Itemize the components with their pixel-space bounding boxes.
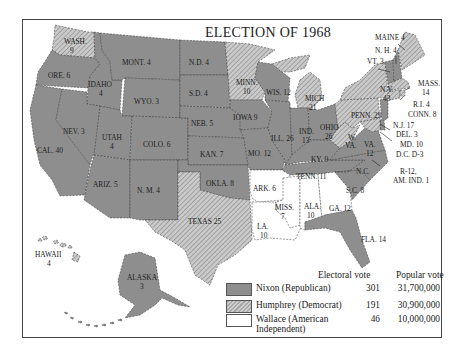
state-alaska[interactable] (118, 252, 190, 318)
label-nev: NEV. 3 (63, 127, 85, 136)
label-iowa: IOWA 9 (233, 113, 258, 122)
legend-electoral-header: Electoral vote (318, 270, 370, 280)
label-del: DEL. 3 (396, 130, 418, 139)
legend-popular-header: Popular vote (396, 270, 444, 280)
label-sc: S.C. 8 (346, 186, 365, 195)
label-tenn: TENN. 11 (296, 172, 327, 181)
legend-name: Nixon (Republican) (256, 283, 331, 293)
label-ark: ARK. 6 (253, 184, 276, 193)
label-dc: D.C. D-3 (396, 150, 424, 159)
label-fla: FLA. 14 (361, 235, 386, 244)
legend-row-nixon: Nixon (Republican) 301 31,700,000 (226, 283, 441, 297)
label-wyo: WYO. 3 (134, 97, 159, 106)
legend-popular: 31,700,000 (386, 283, 440, 293)
label-nc-note: R-12,AM. IND. 1 (393, 167, 429, 185)
wallace-swatch (226, 314, 252, 327)
label-texas: TEXAS 25 (188, 217, 221, 226)
legend-name: Wallace (AmericanIndependent) (256, 314, 328, 334)
legend-popular: 10,000,000 (386, 314, 440, 324)
label-okla: OKLA. 8 (206, 179, 234, 188)
label-maine: MAINE 4 (375, 33, 405, 42)
label-ariz: ARIZ. 5 (93, 180, 118, 189)
label-conn: CONN. 8 (408, 110, 437, 119)
legend-name: Humphrey (Democrat) (256, 300, 342, 310)
label-nh: N. H. 4 (375, 46, 397, 55)
label-neb: NEB. 5 (191, 119, 214, 128)
label-nj: N.J. 17 (393, 121, 414, 130)
label-md: MD. 10 (400, 140, 423, 149)
label-wis: WIS. 12 (266, 88, 291, 97)
state-colo[interactable] (130, 116, 188, 160)
legend-row-humphrey: Humphrey (Democrat) 191 30,900,000 (226, 300, 441, 314)
label-nd: N.D. 4 (189, 58, 209, 67)
humphrey-swatch (226, 300, 252, 313)
legend-electoral: 191 (354, 300, 380, 310)
label-hawaii: HAWAII4 (35, 250, 62, 268)
label-colo: COLO. 6 (143, 140, 171, 149)
label-vt: VT. 3 (367, 57, 384, 66)
label-penn: PENN. 29 (351, 111, 382, 120)
label-ore: ORE. 6 (48, 71, 71, 80)
label-sd: S.D. 4 (189, 89, 208, 98)
label-kan: KAN. 7 (200, 150, 224, 159)
aleutian-islands (65, 312, 123, 327)
label-mont: MONT. 4 (122, 58, 151, 67)
label-ga: GA. 12 (329, 204, 351, 213)
legend-row-wallace: Wallace (AmericanIndependent) 46 10,000,… (226, 314, 441, 328)
map-title: ELECTION OF 1968 (205, 25, 331, 41)
state-ri[interactable] (400, 90, 405, 96)
state-del[interactable] (380, 120, 385, 130)
label-ky: KY. 9 (311, 155, 328, 164)
label-mo: MO. 12 (248, 149, 271, 158)
state-mont[interactable] (100, 33, 180, 80)
label-ri: R.I. 4 (413, 100, 430, 109)
legend-popular: 30,900,000 (386, 300, 440, 310)
label-mass: MASS.14 (418, 79, 440, 97)
nixon-swatch (226, 283, 252, 296)
label-nm: N. M. 4 (137, 186, 160, 195)
legend-electoral: 301 (354, 283, 380, 293)
label-ill: ILL. 26 (271, 134, 294, 143)
legend-electoral: 46 (354, 314, 380, 324)
label-nc: N.C. (356, 167, 370, 176)
label-cal: CAL. 40 (37, 146, 63, 155)
